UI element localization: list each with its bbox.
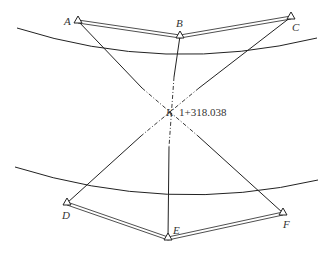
label-k: K bbox=[165, 106, 174, 118]
station-c-triangle-icon bbox=[287, 12, 295, 19]
survey-diagram: A B C D E F K 1+318.038 bbox=[0, 0, 329, 257]
station-d-triangle-icon bbox=[63, 198, 71, 205]
sight-lines-solid bbox=[67, 17, 291, 238]
lower-road-edge-curve bbox=[15, 167, 318, 195]
label-d: D bbox=[61, 209, 70, 221]
station-f-triangle-icon bbox=[279, 208, 287, 215]
label-e: E bbox=[172, 224, 180, 236]
label-f: F bbox=[282, 218, 290, 230]
top-traverse bbox=[78, 16, 291, 38]
label-a: A bbox=[63, 15, 71, 27]
station-a-triangle-icon bbox=[74, 16, 82, 23]
label-c: C bbox=[292, 21, 300, 33]
label-b: B bbox=[176, 17, 183, 29]
chainage-label: 1+318.038 bbox=[179, 106, 227, 118]
